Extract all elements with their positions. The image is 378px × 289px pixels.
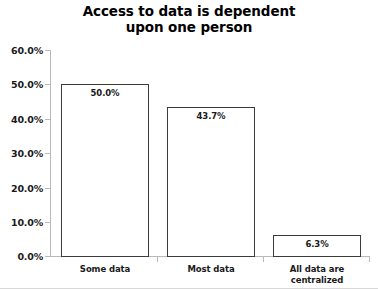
y-axis-label-40: 40.0% [0,114,43,125]
category-label-line: centralized [273,275,361,286]
chart-title: Access to data is dependent upon one per… [0,4,378,35]
y-axis-tick [45,188,50,189]
chart-title-line-1: Access to data is dependent [0,4,378,20]
bar-some-data [61,84,149,257]
category-label-some-data: Some data [61,264,149,275]
y-axis-label-20: 20.0% [0,183,43,194]
y-axis-label-0: 0.0% [0,251,43,262]
y-axis-line [50,50,51,257]
category-label-all-data-centralized: All data are centralized [273,264,361,285]
bar-value-some-data: 50.0% [61,88,149,98]
y-axis-label-30: 30.0% [0,148,43,159]
y-axis-tick [45,119,50,120]
category-label-line: All data are [273,264,361,275]
bar-value-most-data: 43.7% [167,111,255,121]
y-axis-tick [45,222,50,223]
y-axis-tick [45,50,50,51]
bar-chart: Access to data is dependent upon one per… [0,0,378,289]
x-axis-tick [157,257,158,262]
y-axis-label-50: 50.0% [0,79,43,90]
chart-title-line-2: upon one person [0,20,378,36]
category-label-most-data: Most data [167,264,255,275]
y-axis-tick [45,153,50,154]
x-axis-tick [369,257,370,262]
category-label-line: Most data [187,264,234,274]
y-axis-tick [45,84,50,85]
y-axis-label-60: 60.0% [0,45,43,56]
x-axis-tick [263,257,264,262]
y-axis-label-10: 10.0% [0,217,43,228]
category-label-line: Some data [80,264,130,274]
bar-most-data [167,107,255,257]
bar-value-all-data-centralized: 6.3% [273,239,361,249]
y-axis-tick [45,256,50,257]
